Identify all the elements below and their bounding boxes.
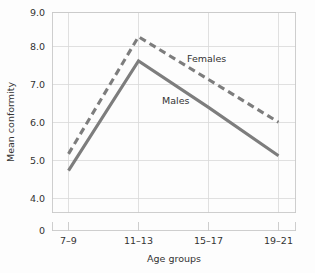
ytick-label-7: 7.0: [30, 79, 45, 90]
x-axis-title: Age groups: [147, 253, 201, 264]
series-label-males: Males: [162, 95, 190, 106]
ytick-label-zero: 0: [39, 225, 45, 236]
ytick-label-8: 8.0: [30, 41, 45, 52]
xtick-label-2: 15–17: [194, 235, 223, 246]
series-label-females: Females: [187, 53, 226, 64]
ytick-label-6: 6.0: [30, 117, 45, 128]
xtick-label-1: 11–13: [124, 235, 153, 246]
xtick-label-3: 19–21: [264, 235, 293, 246]
ytick-label-4: 4.0: [30, 193, 45, 204]
chart-background: [0, 0, 315, 273]
xtick-label-0: 7–9: [60, 235, 77, 246]
chart-canvas: 9.0 8.0 7.0 6.0 5.0 4.0 0 7–9 11–13 15–1…: [0, 0, 315, 273]
y-axis-title: Mean conformity: [5, 82, 16, 162]
ytick-label-5: 5.0: [30, 155, 45, 166]
line-chart: 9.0 8.0 7.0 6.0 5.0 4.0 0 7–9 11–13 15–1…: [0, 0, 315, 273]
ytick-label-9: 9.0: [30, 7, 45, 18]
